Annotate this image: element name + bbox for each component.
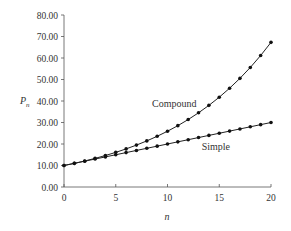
data-point	[176, 124, 180, 128]
y-tick-label: 30.00	[37, 118, 59, 128]
data-point	[145, 147, 149, 151]
data-point	[73, 162, 77, 166]
data-point	[83, 159, 87, 163]
y-tick-label: 0.00	[41, 183, 58, 193]
y-tick-label: 70.00	[37, 32, 59, 42]
data-point	[197, 111, 201, 115]
y-axis-label: Pn	[19, 95, 30, 109]
data-point	[135, 149, 139, 153]
x-tick-label: 15	[215, 193, 225, 203]
compound-label: Compound	[152, 98, 196, 109]
data-point	[62, 164, 66, 168]
x-tick-label: 5	[113, 193, 118, 203]
data-point	[207, 134, 211, 138]
data-point	[114, 153, 118, 157]
data-point	[217, 95, 221, 99]
data-point	[259, 123, 263, 127]
y-tick-label: 10.00	[37, 161, 59, 171]
data-point	[238, 77, 242, 81]
data-point	[166, 129, 170, 133]
y-tick-label: 80.00	[37, 11, 59, 21]
simple-label: Simple	[202, 141, 231, 152]
data-point	[217, 131, 221, 135]
line-chart: 0.0010.0020.0030.0040.0050.0060.0070.008…	[0, 0, 291, 231]
data-point	[176, 140, 180, 144]
data-point	[166, 142, 170, 146]
data-point	[104, 155, 108, 159]
x-tick-label: 0	[62, 193, 67, 203]
data-point	[155, 135, 159, 139]
data-point	[238, 127, 242, 131]
x-axis-label: n	[165, 211, 170, 222]
x-tick-label: 10	[163, 193, 173, 203]
data-point	[269, 121, 273, 125]
data-point	[186, 118, 190, 122]
data-point	[249, 125, 253, 129]
data-point	[155, 144, 159, 148]
data-point	[228, 86, 232, 90]
y-tick-label: 40.00	[37, 97, 59, 107]
data-point	[124, 147, 128, 151]
y-tick-label: 50.00	[37, 75, 59, 85]
data-point	[228, 129, 232, 133]
data-point	[135, 143, 139, 147]
data-point	[186, 138, 190, 142]
data-point	[145, 139, 149, 143]
data-point	[269, 41, 273, 45]
y-tick-label: 20.00	[37, 140, 59, 150]
y-tick-label: 60.00	[37, 54, 59, 64]
data-point	[207, 104, 211, 108]
x-tick-label: 20	[266, 193, 276, 203]
data-point	[124, 151, 128, 155]
data-point	[197, 136, 201, 140]
data-point	[249, 66, 253, 70]
data-point	[93, 157, 97, 161]
data-point	[259, 54, 263, 58]
